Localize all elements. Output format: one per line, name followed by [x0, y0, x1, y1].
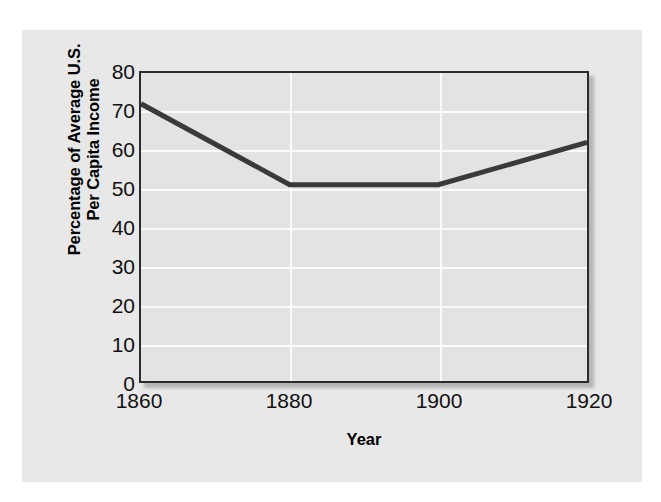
- y-axis-tick-label: 30: [77, 256, 135, 277]
- y-axis-tick-labels: 01020304050607080: [73, 71, 135, 383]
- x-axis-tick-label: 1880: [234, 390, 344, 411]
- x-axis-tick-label: 1920: [534, 390, 644, 411]
- x-axis-tick-labels: 1860188019001920: [139, 390, 589, 420]
- plot-area: [139, 71, 589, 383]
- y-axis-tick-label: 20: [77, 295, 135, 316]
- x-axis-tick-label: 1900: [384, 390, 494, 411]
- y-axis-tick-label: 80: [77, 61, 135, 82]
- chart-figure: Percentage of Average U.S. Per Capita In…: [22, 30, 642, 482]
- y-axis-tick-label: 60: [77, 139, 135, 160]
- x-axis-tick-label: 1860: [84, 390, 194, 411]
- x-axis-title: Year: [139, 430, 589, 449]
- data-line: [141, 73, 587, 381]
- y-axis-tick-label: 40: [77, 217, 135, 238]
- y-axis-tick-label: 70: [77, 100, 135, 121]
- plot-inner: [141, 73, 587, 381]
- y-axis-tick-label: 10: [77, 334, 135, 355]
- y-axis-tick-label: 50: [77, 178, 135, 199]
